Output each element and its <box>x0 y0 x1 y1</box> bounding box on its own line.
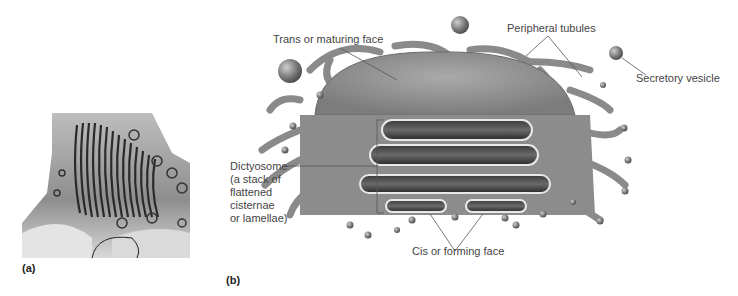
label-trans-face: Trans or maturing face <box>273 33 383 46</box>
label-peripheral-tubules: Peripheral tubules <box>507 22 596 35</box>
label-secretory-vesicle: Secretory vesicle <box>636 72 720 85</box>
panel-b-label: (b) <box>226 274 240 286</box>
label-dictyosome: Dictyosome (a stack of flattened cistern… <box>230 160 287 225</box>
label-cis-face: Cis or forming face <box>412 245 504 258</box>
